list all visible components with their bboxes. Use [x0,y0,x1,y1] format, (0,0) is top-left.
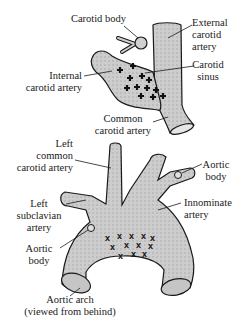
label-left-subclavian-artery: Left subclavian artery [14,198,64,234]
svg-text:x: x [117,231,122,241]
label-line: carotid [192,29,228,41]
aortic-body-right [175,172,182,179]
svg-text:x: x [124,240,129,250]
label-line: Carotid [192,59,224,71]
label-line: Common [93,113,153,125]
label-line: Left [14,198,64,210]
label-aortic-arch: Aortic arch (viewed from behind) [20,294,120,318]
label-internal-carotid-artery: Internal carotid artery [20,70,82,94]
svg-text:x: x [131,249,136,259]
svg-text:x: x [142,249,147,259]
label-line: sinus [192,71,224,83]
label-line: carotid artery [5,162,73,174]
aortic-arch-diagram: xxxxx xxxx xxx [59,143,202,298]
label-left-common-carotid-artery: Left common carotid artery [5,138,73,174]
label-line: Left [5,138,73,150]
label-aortic-body-left: Aortic body [20,243,58,267]
label-line: carotid artery [20,82,82,94]
svg-text:x: x [148,241,153,251]
label-innominate-artery: Innominate artery [184,197,232,221]
external-carotid-artery [153,23,194,133]
label-line: artery [14,222,64,234]
aortic-arch [61,143,195,291]
label-carotid-sinus: Carotid sinus [192,59,224,83]
svg-text:x: x [118,251,123,261]
label-carotid-body: Carotid body [60,13,126,25]
label-line: Innominate [184,197,232,209]
label-line: Aortic [20,243,58,255]
svg-text:x: x [129,231,134,241]
label-line: body [20,255,58,267]
label-line: artery [184,209,232,221]
label-line: carotid artery [93,125,153,137]
label-line: body [200,171,232,183]
label-common-carotid-artery: Common carotid artery [93,113,153,137]
label-line: subclavian [14,210,64,222]
label-line: common [5,150,73,162]
svg-text:x: x [141,231,146,241]
label-line: Aortic arch [20,294,120,306]
label-aortic-body-right: Aortic body [200,159,232,183]
label-line: Aortic [200,159,232,171]
carotid-body [118,37,147,52]
svg-text:x: x [136,240,141,250]
aortic-body-left [88,225,95,232]
label-line: (viewed from behind) [20,306,120,318]
label-line: Internal [20,70,82,82]
svg-text:x: x [110,242,115,252]
label-line: artery [192,41,228,53]
label-line: External [192,17,228,29]
label-external-carotid-artery: External carotid artery [192,17,228,53]
